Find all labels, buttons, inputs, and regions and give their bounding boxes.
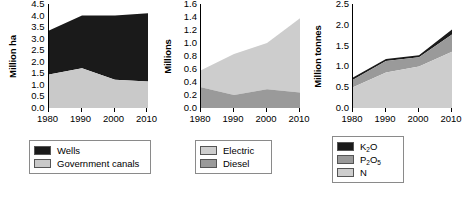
legend-pumpsets: Electric Diesel <box>195 140 272 174</box>
legend-item-diesel[interactable]: Diesel <box>200 157 265 170</box>
plot-area-irrigation: Million ha 4.5 4.0 3.5 3.0 2.5 2.0 1.5 1… <box>3 0 153 134</box>
plot-canvas-fertiliser <box>352 4 452 108</box>
legend-label-k2o: K2O <box>360 142 377 152</box>
y-tick-label: 1.6 <box>184 0 197 9</box>
x-tick-label: 1980 <box>37 114 58 124</box>
y-tick-label: 1.5 <box>31 69 44 79</box>
y-tick-label: 1.0 <box>184 38 197 48</box>
y-tick-label: 0.6 <box>184 64 197 74</box>
y-tick-label: 0.0 <box>31 103 44 113</box>
legend-swatch-government-canals <box>34 159 51 168</box>
y-tick-label: 1.0 <box>336 62 349 72</box>
legend-label-n: N <box>360 168 367 178</box>
legend-item-electric[interactable]: Electric <box>200 144 265 157</box>
x-tick-label: 1980 <box>341 114 362 124</box>
legend-swatch-n <box>337 168 354 177</box>
legend-label-wells: Wells <box>57 146 80 156</box>
x-tick-label: 2010 <box>136 114 157 124</box>
y-tick-label: 2.5 <box>31 45 44 55</box>
y-axis-ticklabels-fertiliser: 2.5 2.0 1.5 1.0 0.5 0.0 <box>323 4 351 108</box>
plot-area-fertiliser: Million tonnes 2.5 2.0 1.5 1.0 0.5 0.0 <box>307 0 463 134</box>
x-tick-label: 1980 <box>189 114 210 124</box>
y-tick-label: 0.0 <box>184 103 197 113</box>
y-tick-label: 0.0 <box>336 103 349 113</box>
plot-area-pumpsets: Millions 1.6 1.4 1.2 1.0 0.8 0.6 0.4 0.2… <box>155 0 307 134</box>
x-tick-label: 2000 <box>255 114 276 124</box>
x-axis-ticklabels-pumpsets: 1980 1990 2000 2010 <box>200 112 300 128</box>
y-axis-ticklabels-irrigation: 4.5 4.0 3.5 3.0 2.5 2.0 1.5 1.0 0.5 0.0 <box>19 4 47 108</box>
x-tick-label: 1990 <box>374 114 395 124</box>
y-tick-label: 0.5 <box>336 82 349 92</box>
legend-item-n[interactable]: N <box>337 166 397 179</box>
legend-label-electric: Electric <box>223 146 254 156</box>
legend-item-government-canals[interactable]: Government canals <box>34 157 144 170</box>
legend-label-p2o5: P2O5 <box>360 155 381 165</box>
y-tick-label: 1.5 <box>336 41 349 51</box>
legend-swatch-wells <box>34 146 51 155</box>
stacked-area-irrigation <box>49 4 148 108</box>
stacked-area-pumpsets <box>201 4 300 108</box>
y-tick-label: 1.4 <box>184 12 197 22</box>
chart-panel-fertiliser: Million tonnes 2.5 2.0 1.5 1.0 0.5 0.0 <box>307 0 463 199</box>
y-tick-label: 0.5 <box>31 92 44 102</box>
x-axis-ticklabels-fertiliser: 1980 1990 2000 2010 <box>352 112 452 128</box>
y-tick-label: 1.2 <box>184 25 197 35</box>
legend-label-diesel: Diesel <box>223 159 249 169</box>
y-tick-label: 3.0 <box>31 34 44 44</box>
y-tick-label: 0.8 <box>184 51 197 61</box>
x-axis-ticklabels-irrigation: 1980 1990 2000 2010 <box>48 112 148 128</box>
legend-swatch-diesel <box>200 159 217 168</box>
legend-item-k2o[interactable]: K2O <box>337 140 397 153</box>
y-tick-label: 2.5 <box>336 0 349 9</box>
x-tick-label: 1990 <box>70 114 91 124</box>
plot-canvas-pumpsets <box>200 4 300 108</box>
legend-swatch-p2o5 <box>337 155 354 164</box>
legend-irrigation: Wells Government canals <box>29 140 151 174</box>
series-area-wells <box>49 13 148 81</box>
y-tick-label: 2.0 <box>31 57 44 67</box>
y-tick-label: 3.5 <box>31 22 44 32</box>
figure-three-stacked-area-charts: Million ha 4.5 4.0 3.5 3.0 2.5 2.0 1.5 1… <box>0 0 463 199</box>
x-tick-label: 2010 <box>440 114 461 124</box>
legend-swatch-electric <box>200 146 217 155</box>
y-axis-ticklabels-pumpsets: 1.6 1.4 1.2 1.0 0.8 0.6 0.4 0.2 0.0 <box>171 4 199 108</box>
series-area-electric <box>201 18 300 95</box>
legend-item-p2o5[interactable]: P2O5 <box>337 153 397 166</box>
legend-swatch-k2o <box>337 142 354 151</box>
legend-fertiliser: K2O P2O5 N <box>332 136 404 183</box>
x-tick-label: 1990 <box>222 114 243 124</box>
chart-panel-irrigation: Million ha 4.5 4.0 3.5 3.0 2.5 2.0 1.5 1… <box>0 0 155 199</box>
legend-label-government-canals: Government canals <box>57 159 139 169</box>
y-tick-label: 0.4 <box>184 77 197 87</box>
y-tick-label: 2.0 <box>336 20 349 30</box>
y-tick-label: 4.0 <box>31 11 44 21</box>
y-tick-label: 0.2 <box>184 90 197 100</box>
chart-panel-pumpsets: Millions 1.6 1.4 1.2 1.0 0.8 0.6 0.4 0.2… <box>155 0 307 199</box>
stacked-area-fertiliser <box>353 4 452 108</box>
y-tick-label: 1.0 <box>31 80 44 90</box>
plot-canvas-irrigation <box>48 4 148 108</box>
legend-item-wells[interactable]: Wells <box>34 144 144 157</box>
x-tick-label: 2000 <box>103 114 124 124</box>
y-tick-label: 4.5 <box>31 0 44 9</box>
x-tick-label: 2000 <box>407 114 428 124</box>
